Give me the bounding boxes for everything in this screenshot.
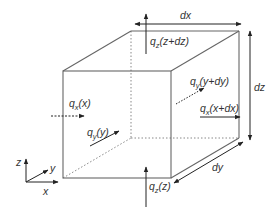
cube-front-face bbox=[63, 71, 171, 178]
cube-top-left-depth-edge bbox=[63, 31, 131, 71]
y-axis bbox=[26, 170, 48, 182]
x-axis-label: x bbox=[42, 185, 49, 197]
qy-back-label: qy(y+dy) bbox=[190, 75, 229, 90]
control-volume-diagram: dx dz dy qz(z+dz) qz(z) qx(x) qx(x+dx) q… bbox=[0, 0, 278, 212]
bottom-left-depth-edge bbox=[63, 138, 131, 178]
cube-bottom-right-depth-edge bbox=[171, 138, 239, 178]
dz-label: dz bbox=[254, 81, 266, 93]
z-axis-label: z bbox=[15, 156, 22, 168]
y-axis-label: y bbox=[49, 162, 56, 174]
qz-top-label: qz(z+dz) bbox=[150, 35, 189, 50]
qx-left-label: qx(x) bbox=[69, 97, 91, 112]
dx-label: dx bbox=[180, 9, 192, 21]
dy-label: dy bbox=[212, 161, 224, 173]
qx-right-label: qx(x+dx) bbox=[200, 102, 239, 117]
qz-bottom-label: qz(z) bbox=[149, 180, 171, 195]
dy-arrow bbox=[174, 142, 243, 183]
